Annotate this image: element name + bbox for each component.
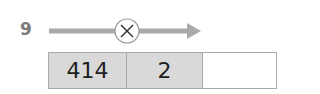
cell-multiplicand: 414 xyxy=(49,53,126,88)
answer-row: 414 2 xyxy=(48,52,277,89)
cell-multiplier: 2 xyxy=(126,53,202,88)
cell-answer-input[interactable] xyxy=(202,53,276,88)
multiply-icon xyxy=(115,19,139,43)
arrow-head-icon xyxy=(187,23,201,39)
